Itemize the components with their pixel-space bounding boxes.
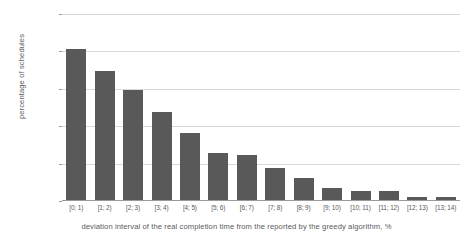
y-axis-title: percentage of schedules <box>17 12 26 142</box>
x-tick-label: [3; 4) <box>147 204 175 211</box>
x-tick-label: [7; 8) <box>261 204 289 211</box>
bar <box>208 153 228 201</box>
x-tick-label: [0; 1) <box>62 204 90 211</box>
bar <box>180 133 200 201</box>
bars-layer <box>62 14 460 201</box>
x-tick-label: [13; 14) <box>432 204 460 211</box>
x-tick-label: [6; 7) <box>233 204 261 211</box>
x-axis-line <box>62 200 460 201</box>
x-tick-label: [2; 3) <box>119 204 147 211</box>
x-axis-title: deviation interval of the real completio… <box>0 222 473 231</box>
x-tick-label: [8; 9) <box>289 204 317 211</box>
x-tick-label: [12; 13) <box>403 204 431 211</box>
bar <box>123 90 143 201</box>
x-tick-label: [11; 12) <box>375 204 403 211</box>
x-tick-label: [5; 6) <box>204 204 232 211</box>
x-tick-label: [10; 11) <box>346 204 374 211</box>
y-tick-mark <box>59 201 62 202</box>
x-tick-label: [4; 5) <box>176 204 204 211</box>
x-tick-label: [1; 2) <box>90 204 118 211</box>
bar <box>294 178 314 201</box>
bar <box>66 49 86 201</box>
bar <box>265 168 285 201</box>
plot-area: 0%5%10%15%20%25% [0; 1)[1; 2)[2; 3)[3; 4… <box>62 14 460 201</box>
bar <box>237 155 257 201</box>
bar <box>95 71 115 201</box>
bar-chart: percentage of schedules 0%5%10%15%20%25%… <box>0 0 473 242</box>
bar <box>152 112 172 201</box>
x-tick-label: [9; 10) <box>318 204 346 211</box>
